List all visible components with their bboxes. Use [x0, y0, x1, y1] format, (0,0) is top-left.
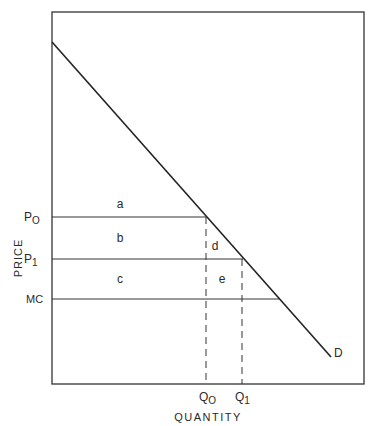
region-d-label: d — [212, 239, 219, 253]
demand-curve — [52, 42, 331, 357]
region-a-label: a — [117, 197, 124, 211]
p0-label: PO — [24, 210, 40, 226]
plot-frame — [52, 12, 364, 384]
x-axis-label: QUANTITY — [174, 411, 242, 423]
mc-label: MC — [26, 293, 43, 305]
region-e-label: e — [219, 272, 226, 286]
region-b-label: b — [117, 231, 124, 245]
p1-label: P1 — [24, 252, 38, 268]
q0-label: QO — [199, 390, 216, 406]
q1-label: Q1 — [235, 390, 250, 406]
region-c-label: c — [117, 272, 123, 286]
y-axis-label: PRICE — [12, 239, 24, 278]
demand-diagram: PO P1 MC PRICE a b c d e D QO Q1 QUANTIT… — [0, 0, 371, 426]
demand-curve-label: D — [334, 346, 343, 360]
